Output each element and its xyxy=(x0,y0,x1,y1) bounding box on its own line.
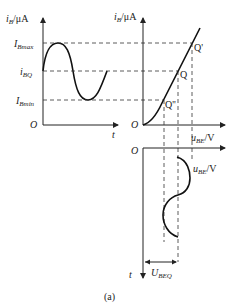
point-q-label: Q xyxy=(180,69,188,80)
input-characteristic-diagram: iB/μA IBmax iBQ IBmin O t iB/μA O uBE/V … xyxy=(0,0,233,305)
level-ibq-label: iBQ xyxy=(20,66,32,79)
ubeq-label: UBEQ xyxy=(151,267,172,280)
left-t-axis-label: t xyxy=(112,129,115,140)
bottom-origin-label: O xyxy=(131,145,138,156)
bottom-x-axis-label: uBE/V xyxy=(193,163,217,176)
left-origin-label: O xyxy=(30,119,37,130)
input-characteristic-plot: iB/μA O uBE/V Q' Q Q'' xyxy=(114,11,225,145)
level-ibmin-label: IBmin xyxy=(15,95,35,108)
right-x-axis-label: uBE/V xyxy=(191,132,215,145)
right-origin-label: O xyxy=(131,119,138,130)
input-waveform-plot: iB/μA IBmax iBQ IBmin O t xyxy=(6,13,118,140)
right-y-axis-label: iB/μA xyxy=(114,11,137,24)
ubeq-arrow-left-icon xyxy=(145,260,150,265)
ube-sine-wave xyxy=(163,157,190,237)
ubeq-arrow-right-icon xyxy=(172,260,177,265)
ube-waveform-plot: O uBE/V t UBEQ xyxy=(129,145,225,280)
point-q-prime-label: Q' xyxy=(194,42,203,53)
bottom-t-axis-label: t xyxy=(129,269,132,280)
ib-ube-characteristic-curve xyxy=(143,28,200,125)
ib-sine-wave xyxy=(43,43,107,100)
figure-caption: (a) xyxy=(104,291,115,303)
level-ibmax-label: IBmax xyxy=(13,38,34,51)
left-y-axis-label: iB/μA xyxy=(6,13,29,26)
point-q-double-prime-label: Q'' xyxy=(165,99,176,110)
